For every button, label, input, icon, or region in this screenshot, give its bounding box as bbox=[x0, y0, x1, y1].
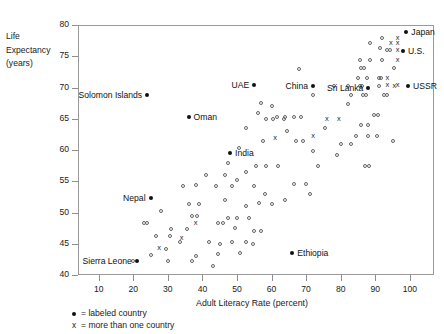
country-label: Sri Lanka bbox=[327, 83, 363, 92]
data-point-single bbox=[368, 41, 372, 45]
country-label: USSR bbox=[413, 82, 437, 91]
y-axis-tick-label: 65 bbox=[45, 113, 69, 123]
x-axis-tick-label: 100 bbox=[395, 284, 425, 294]
country-label: Ethiopia bbox=[297, 248, 328, 257]
data-point-single bbox=[270, 202, 274, 206]
data-point-single bbox=[308, 192, 312, 196]
data-point-multi: x bbox=[193, 219, 199, 227]
legend-label-multiple-countries: = more than one country bbox=[81, 320, 174, 332]
data-point-multi: x bbox=[388, 39, 394, 47]
data-point-single bbox=[301, 139, 305, 143]
data-point-labeled bbox=[311, 84, 315, 88]
chart-legend: = labeled country x = more than one coun… bbox=[72, 308, 174, 331]
data-point-labeled bbox=[366, 86, 370, 90]
data-point-single bbox=[251, 242, 255, 246]
x-axis-tick-label: 50 bbox=[222, 284, 252, 294]
data-point-single bbox=[270, 104, 274, 108]
data-point-single bbox=[235, 178, 239, 182]
plot-area bbox=[78, 25, 434, 275]
x-axis-tick bbox=[237, 275, 238, 281]
data-point-single bbox=[261, 139, 265, 143]
data-point-single bbox=[376, 113, 380, 117]
data-point-single bbox=[366, 134, 370, 138]
data-point-single bbox=[339, 142, 343, 146]
y-axis-tick-label: 55 bbox=[45, 175, 69, 185]
data-point-single bbox=[190, 214, 194, 218]
data-point-single bbox=[316, 164, 320, 168]
legend-item-multiple-countries: x = more than one country bbox=[72, 320, 174, 332]
x-axis-tick bbox=[306, 275, 307, 281]
data-point-single bbox=[211, 264, 215, 268]
data-point-single bbox=[214, 184, 218, 188]
scatter-plot-figure: Life Expectancy (years) 4045505560657075… bbox=[0, 0, 444, 334]
country-label: Sierra Leone bbox=[83, 256, 132, 265]
country-label: UAE bbox=[232, 81, 250, 90]
data-point-single bbox=[244, 204, 248, 208]
data-point-single bbox=[367, 164, 371, 168]
data-point-single bbox=[149, 253, 153, 257]
y-axis-tick bbox=[72, 275, 78, 276]
y-axis-tick-label: 60 bbox=[45, 144, 69, 154]
data-point-single bbox=[259, 101, 263, 105]
data-point-labeled bbox=[187, 115, 191, 119]
data-point-labeled bbox=[149, 196, 153, 200]
x-axis-title-text: Adult Literacy Rate (percent) bbox=[196, 298, 308, 308]
y-axis-tick bbox=[72, 181, 78, 182]
data-point-labeled bbox=[135, 259, 139, 263]
x-axis-tick bbox=[410, 275, 411, 281]
y-axis-tick bbox=[72, 88, 78, 89]
x-axis-tick-label: 60 bbox=[257, 284, 287, 294]
y-axis-tick-label: 45 bbox=[45, 238, 69, 248]
x-axis-tick bbox=[168, 275, 169, 281]
x-axis-tick-label: 10 bbox=[84, 284, 114, 294]
x-axis-tick bbox=[272, 275, 273, 281]
country-label: Solomon Islands bbox=[79, 91, 143, 100]
data-point-multi: x bbox=[395, 56, 401, 64]
data-point-multi: x bbox=[272, 134, 278, 142]
data-point-single bbox=[297, 67, 301, 71]
data-point-single bbox=[294, 139, 298, 143]
data-point-single bbox=[275, 115, 279, 119]
country-label: U.S. bbox=[408, 47, 425, 56]
x-axis-tick bbox=[133, 275, 134, 281]
data-point-single bbox=[204, 173, 208, 177]
country-label: Nepal bbox=[123, 194, 145, 203]
data-point-single bbox=[252, 184, 256, 188]
data-point-multi: x bbox=[395, 81, 401, 89]
y-axis-title-line-1: Life bbox=[6, 30, 72, 44]
data-point-single bbox=[247, 216, 251, 220]
country-label: Oman bbox=[194, 112, 217, 121]
data-point-single bbox=[356, 76, 360, 80]
data-point-single bbox=[391, 139, 395, 143]
data-point-multi: x bbox=[324, 115, 330, 123]
y-axis-tick-label: 80 bbox=[45, 19, 69, 29]
data-point-single bbox=[349, 142, 353, 146]
filled-dot-icon bbox=[72, 312, 76, 316]
data-point-single bbox=[223, 198, 227, 202]
data-point-single bbox=[226, 216, 230, 220]
data-point-single bbox=[194, 254, 198, 258]
country-label: India bbox=[235, 148, 254, 157]
data-point-single bbox=[244, 170, 248, 174]
y-axis-tick bbox=[72, 25, 78, 26]
x-axis-tick bbox=[375, 275, 376, 281]
data-point-single bbox=[190, 259, 194, 263]
data-point-single bbox=[375, 134, 379, 138]
x-axis-tick bbox=[202, 275, 203, 281]
y-axis-tick bbox=[72, 213, 78, 214]
y-axis-tick-label: 70 bbox=[45, 82, 69, 92]
data-point-single bbox=[299, 115, 303, 119]
x-axis-tick-label: 70 bbox=[291, 284, 321, 294]
legend-label-labeled-country: = labeled country bbox=[81, 308, 147, 320]
data-point-single bbox=[365, 76, 369, 80]
x-axis-tick-label: 20 bbox=[118, 284, 148, 294]
data-point-single bbox=[254, 164, 258, 168]
data-point-multi: x bbox=[336, 115, 342, 123]
y-axis-tick bbox=[72, 150, 78, 151]
x-axis-tick-label: 80 bbox=[326, 284, 356, 294]
data-point-single bbox=[230, 184, 234, 188]
data-point-single bbox=[168, 234, 172, 238]
x-axis-title: Adult Literacy Rate (percent) bbox=[0, 298, 444, 308]
data-point-single bbox=[256, 111, 260, 115]
y-axis-tick bbox=[72, 119, 78, 120]
